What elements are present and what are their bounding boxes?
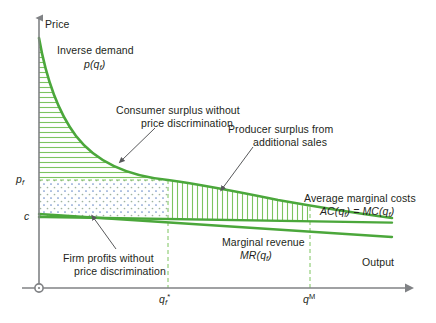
amc-formula-tail: ) [391,205,395,217]
y-tick-c-base: c [24,210,29,222]
amc-formula-mid: ) = MC(q [347,205,389,217]
annotation-inverse-demand-formula-base: p(q [84,58,99,70]
annotation-inverse-demand-formula: p(qf) [84,58,105,73]
annotation-producer-surplus-line1: Producer surplus from [228,123,333,136]
mr-formula-tail: ) [268,249,272,261]
annotation-inverse-demand-formula-sub: f [99,63,101,72]
x-tick-qf-sup: * [167,292,170,301]
x-axis-arrow [405,284,414,293]
y-tick-pf: pf [16,173,24,188]
y-tick-c: c [24,210,29,223]
x-tick-qm-sup: M [309,292,315,301]
annotation-firm-profits-line1: Firm profits without [63,252,154,265]
annotation-inverse-demand-line1: Inverse demand [57,44,134,56]
x-axis-label: Output [362,256,394,269]
annotation-average-marginal-costs-line1: Average marginal costs [304,192,416,205]
leader-firm-profits [93,217,116,249]
leader-consumer-surplus [121,128,155,161]
origin-dot [38,287,40,289]
annotation-consumer-surplus-line2: price discrimination [141,117,233,130]
leader-producer-surplus [222,147,253,189]
annotation-producer-surplus-line2: additional sales [253,136,327,149]
x-tick-qm: qM [303,293,315,308]
y-axis-label: Price [45,18,69,31]
region-firm-profits [39,180,168,217]
price-discrimination-diagram: Price Output pf c qf* qM Inverse demand … [0,0,436,323]
annotation-inverse-demand: Inverse demand [57,44,134,57]
annotation-firm-profits-line2: price discrimination [74,265,166,278]
annotation-average-marginal-costs-formula: AC(qf) = MC(qf) [320,205,394,220]
x-tick-qf: qf* [159,293,170,308]
mr-formula-sub: f [266,254,268,263]
y-tick-pf-sub: f [22,178,24,187]
annotation-inverse-demand-formula-tail: ) [102,58,106,70]
annotation-marginal-revenue-formula: MR(qf) [240,249,272,264]
amc-formula-sub: f [344,210,346,219]
amc-formula-base: AC(q [320,205,344,217]
annotation-consumer-surplus-line1: Consumer surplus without [116,104,240,117]
amc-formula-sub2: f [388,210,390,219]
mr-formula-base: MR(q [240,249,266,261]
annotation-marginal-revenue-line1: Marginal revenue [222,236,305,249]
